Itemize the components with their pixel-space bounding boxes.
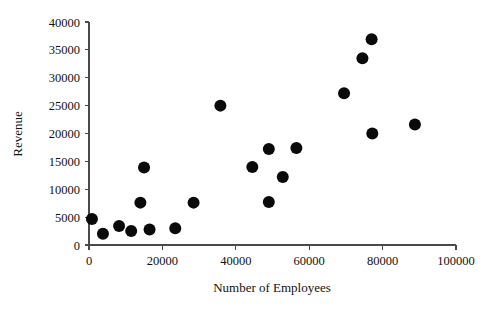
scatter-chart-figure: 0500010000150002000025000300003500040000… <box>0 0 496 309</box>
x-tick-label: 20000 <box>147 254 178 268</box>
data-point <box>125 225 137 237</box>
data-point <box>214 100 226 112</box>
data-point <box>169 222 181 234</box>
y-tick-label: 0 <box>74 239 80 253</box>
x-axis-title: Number of Employees <box>213 280 331 295</box>
data-point <box>97 228 109 240</box>
data-point <box>290 142 302 154</box>
data-point <box>356 52 368 64</box>
data-point <box>366 128 378 140</box>
data-point <box>277 171 289 183</box>
x-tick-label: 60000 <box>294 254 325 268</box>
axis-lines <box>89 22 456 245</box>
y-tick-label: 35000 <box>49 43 80 57</box>
x-axis-tick-labels: 020000400006000080000100000 <box>86 254 475 268</box>
data-point <box>338 87 350 99</box>
data-point <box>409 119 421 131</box>
data-point <box>188 197 200 209</box>
y-tick-label: 10000 <box>49 183 80 197</box>
y-axis-tick-labels: 0500010000150002000025000300003500040000 <box>49 16 80 253</box>
y-tick-label: 20000 <box>49 127 80 141</box>
data-point <box>246 161 258 173</box>
data-points <box>86 33 421 240</box>
data-point <box>144 223 156 235</box>
data-point <box>113 220 125 232</box>
y-tick-label: 30000 <box>49 71 80 85</box>
y-axis-title: Revenue <box>10 111 25 157</box>
x-tick-label: 40000 <box>220 254 251 268</box>
scatter-plot-canvas: 0500010000150002000025000300003500040000… <box>0 0 496 309</box>
y-tick-label: 5000 <box>55 211 80 225</box>
data-point <box>134 197 146 209</box>
y-tick-label: 40000 <box>49 16 80 30</box>
y-tick-label: 25000 <box>49 99 80 113</box>
axis-tick-marks <box>85 22 456 250</box>
data-point <box>86 213 98 225</box>
data-point <box>138 162 150 174</box>
x-tick-label: 0 <box>86 254 92 268</box>
data-point <box>263 196 275 208</box>
x-tick-label: 80000 <box>367 254 398 268</box>
x-tick-label: 100000 <box>437 254 475 268</box>
data-point <box>263 143 275 155</box>
data-point <box>366 33 378 45</box>
y-tick-label: 15000 <box>49 155 80 169</box>
